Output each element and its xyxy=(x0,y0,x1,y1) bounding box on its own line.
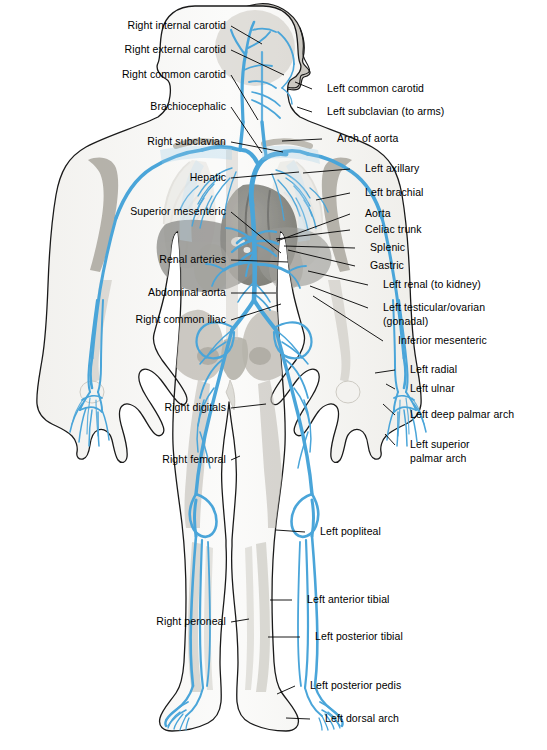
callout-left-anterior-tibial: Left anterior tibial xyxy=(307,593,390,606)
callout-inferior-mesenteric: Inferior mesenteric xyxy=(398,334,487,347)
callout-splenic: Splenic xyxy=(370,241,405,254)
callout-left-dorsal-arch: Left dorsal arch xyxy=(325,712,399,725)
callout-left-renal: Left renal (to kidney) xyxy=(383,278,481,291)
callout-left-posterior-tibial: Left posterior tibial xyxy=(315,630,403,643)
callout-gastric: Gastric xyxy=(370,259,404,272)
callout-right-common-carotid: Right common carotid xyxy=(122,68,226,81)
callout-celiac-trunk: Celiac trunk xyxy=(365,223,422,236)
callout-left-ulnar: Left ulnar xyxy=(410,382,455,395)
callout-left-testicular-ovarian: Left testicular/ovarian xyxy=(383,301,485,314)
callout-right-femoral: Right femoral xyxy=(162,453,226,466)
callout-left-popliteal: Left popliteal xyxy=(320,525,381,538)
callout-right-internal-carotid: Right internal carotid xyxy=(128,19,227,32)
arterial-system-figure: Right internal carotidRight external car… xyxy=(0,0,547,750)
callout-left-deep-palmar-arch: Left deep palmar arch xyxy=(410,408,514,421)
callout-superior-mesenteric: Superior mesenteric xyxy=(130,205,226,218)
callout-brachiocephalic: Brachiocephalic xyxy=(150,100,226,113)
callout-aorta: Aorta xyxy=(365,207,391,220)
callout-right-subclavian: Right subclavian xyxy=(147,135,226,148)
callout-renal-arteries: Renal arteries xyxy=(159,253,226,266)
leader-left-subclavian xyxy=(297,107,312,112)
callout-right-external-carotid: Right external carotid xyxy=(125,43,226,56)
callout-left-gonadal-2: (gonadal) xyxy=(383,315,428,328)
callout-hepatic: Hepatic xyxy=(190,171,226,184)
callout-left-common-carotid: Left common carotid xyxy=(327,82,424,95)
callout-left-superior-palmar-arch-2: palmar arch xyxy=(410,452,467,465)
callout-left-axillary: Left axillary xyxy=(365,162,419,175)
callout-right-common-iliac: Right common iliac xyxy=(136,313,227,326)
callout-left-subclavian: Left subclavian (to arms) xyxy=(327,105,444,118)
callout-right-peroneal: Right peroneal xyxy=(156,615,226,628)
callout-left-brachial: Left brachial xyxy=(365,186,424,199)
callout-left-radial: Left radial xyxy=(410,363,457,376)
leader-left-popliteal xyxy=(276,530,305,532)
callout-right-digitals: Right digitals xyxy=(164,401,226,414)
callout-left-superior-palmar-arch: Left superior xyxy=(410,438,470,451)
callout-left-posterior-pedis: Left posterior pedis xyxy=(310,679,401,692)
anatomy-illustration xyxy=(0,0,547,750)
callout-abdominal-aorta: Abdominal aorta xyxy=(148,286,226,299)
callout-arch-of-aorta: Arch of aorta xyxy=(337,132,398,145)
